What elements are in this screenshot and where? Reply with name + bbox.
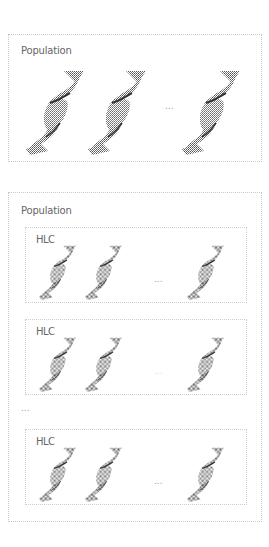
dna-helix-icon [186, 334, 226, 392]
population-panel-top: Population ... [8, 34, 262, 162]
dna-helix-icon [25, 65, 87, 155]
ellipsis: ... [154, 476, 163, 486]
panel-title: Population [21, 45, 72, 56]
panel-title: Population [21, 205, 72, 216]
dna-helix-icon [186, 444, 226, 502]
dna-helix-icon [87, 65, 149, 155]
hlc-group: HLC ... [25, 429, 247, 505]
dna-helix-icon [38, 242, 78, 300]
dna-helix-icon [84, 242, 124, 300]
hlc-group: HLC ... [25, 319, 247, 395]
dna-helix-icon [84, 334, 124, 392]
population-panel-bottom: Population HLC ... HLC ... ... HLC ... [8, 192, 262, 522]
ellipsis: ... [165, 101, 174, 111]
ellipsis: ... [154, 274, 163, 284]
dna-helix-icon [181, 65, 243, 155]
dna-helix-icon [186, 242, 226, 300]
hlc-group: HLC ... [25, 227, 247, 303]
dna-helix-icon [38, 334, 78, 392]
dna-helix-icon [84, 444, 124, 502]
ellipsis: ... [154, 366, 163, 376]
dna-helix-icon [38, 444, 78, 502]
group-ellipsis: ... [21, 403, 30, 413]
